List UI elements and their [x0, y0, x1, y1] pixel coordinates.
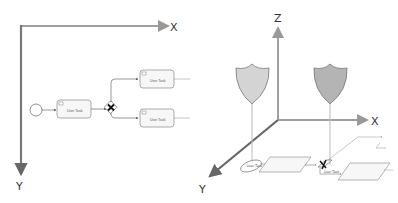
z-axis-label: Z — [274, 12, 282, 25]
shield-icon — [236, 64, 269, 104]
user-task[interactable]: User Task — [323, 163, 390, 180]
y-axis-label: Y — [15, 180, 23, 193]
start-event[interactable] — [30, 104, 42, 116]
user-task[interactable]: User Task — [140, 70, 174, 88]
task-label: User Task — [67, 109, 83, 113]
task-label: User Task — [150, 79, 166, 83]
user-task[interactable]: User Task — [140, 109, 174, 127]
left-diagram: X Y User Task User Task — [15, 21, 190, 193]
x-axis-label: X — [371, 115, 379, 128]
user-task[interactable]: User Task — [246, 157, 311, 172]
x-axis-label: X — [170, 21, 178, 34]
shield-icon — [314, 64, 347, 104]
exclusive-gateway[interactable] — [104, 101, 117, 114]
task-label: User Task — [150, 118, 166, 122]
user-icon — [59, 102, 63, 105]
user-icon — [142, 72, 146, 75]
user-icon — [142, 111, 146, 114]
task-label: User Task — [323, 170, 339, 174]
task-label: User Task — [246, 164, 262, 168]
user-task[interactable]: User Task — [57, 100, 91, 118]
right-diagram: Z X Y User Task — [198, 12, 394, 196]
y-axis-label: Y — [198, 183, 206, 196]
